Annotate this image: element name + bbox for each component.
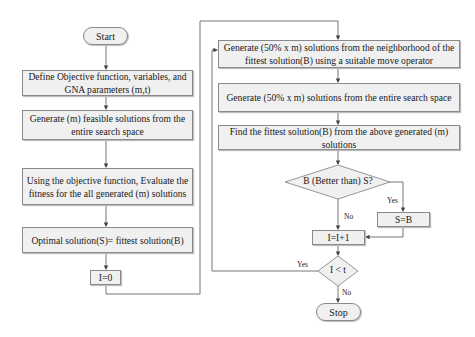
step-label: Generate (m) feasible solutions from the… [26, 112, 189, 138]
init-counter-step: I=0 [90, 270, 121, 285]
stop-terminal: Stop [316, 303, 361, 321]
optimal-solution-step: Optimal solution(S)= fittest solution(B) [22, 227, 193, 253]
decision-better-label: B (Better than) S? [285, 175, 391, 186]
decision-better-no: No [344, 212, 353, 221]
step-label: I=0 [99, 271, 112, 284]
stop-label: Stop [329, 306, 347, 319]
start-label: Start [96, 30, 115, 43]
define-objective-step: Define Objective function, variables, an… [22, 70, 193, 96]
find-fittest-step: Find the fittest solution(B) from the ab… [218, 125, 460, 150]
step-label: Optimal solution(S)= fittest solution(B) [31, 234, 183, 247]
step-label: S=B [395, 213, 412, 226]
neighborhood-generate-step: Generate (50% x m) solutions from the ne… [218, 40, 460, 68]
step-label: Using the objective function, Evaluate t… [26, 174, 189, 200]
decision-better-yes: Yes [387, 196, 398, 205]
step-label: I=I+1 [327, 231, 349, 244]
decision-loop-label: I < t [318, 264, 358, 275]
step-label: Find the fittest solution(B) from the ab… [222, 125, 456, 151]
decision-loop-no: No [342, 288, 351, 297]
generate-feasible-step: Generate (m) feasible solutions from the… [22, 110, 193, 140]
increment-step: I=I+1 [312, 230, 365, 245]
decision-loop-yes: Yes [297, 260, 308, 269]
evaluate-fitness-step: Using the objective function, Evaluate t… [22, 168, 193, 205]
step-label: Define Objective function, variables, an… [26, 70, 189, 96]
step-label: Generate (50% x m) solutions from the en… [226, 91, 451, 104]
search-space-generate-step: Generate (50% x m) solutions from the en… [218, 83, 460, 112]
assign-step: S=B [377, 212, 430, 227]
start-terminal: Start [83, 27, 128, 45]
step-label: Generate (50% x m) solutions from the ne… [222, 41, 456, 67]
